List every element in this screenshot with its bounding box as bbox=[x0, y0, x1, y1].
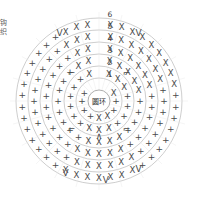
corner-bracket-symbol: ⌐ bbox=[123, 68, 131, 78]
stitch-symbol: + bbox=[56, 107, 64, 117]
stitch-symbol: X bbox=[86, 69, 92, 79]
stitch-symbol: X bbox=[85, 20, 91, 30]
stitch-symbol: + bbox=[56, 85, 64, 95]
stitch-symbol: X bbox=[85, 56, 91, 66]
stitch-symbol: + bbox=[43, 102, 51, 112]
stitch-symbol: + bbox=[34, 74, 42, 84]
stitch-symbol: X bbox=[138, 46, 144, 56]
stitch-symbol: X bbox=[129, 40, 135, 50]
corner-bracket-symbol: ⌐ bbox=[68, 68, 76, 78]
stitch-symbol: + bbox=[49, 123, 57, 133]
stitch-symbol: X bbox=[146, 54, 152, 64]
stitch-symbol: + bbox=[31, 107, 39, 117]
stitch-symbol: + bbox=[135, 107, 143, 117]
stitch-symbol: X bbox=[74, 157, 80, 167]
stitch-symbol: X bbox=[127, 53, 133, 63]
stitch-symbol: + bbox=[56, 61, 64, 71]
corner-bracket-symbol: ⌐ bbox=[68, 124, 76, 134]
stitch-symbol: + bbox=[110, 105, 118, 115]
stitch-symbol: + bbox=[148, 102, 156, 112]
stitch-symbol: X bbox=[106, 123, 112, 133]
round-number-5: 5 bbox=[108, 22, 113, 31]
stitch-symbol: + bbox=[60, 117, 68, 127]
stitch-symbol: + bbox=[18, 90, 26, 100]
stitch-symbol: X bbox=[96, 161, 102, 171]
stitch-symbol: + bbox=[77, 74, 85, 84]
stitch-symbol: X bbox=[118, 48, 124, 58]
stitch-symbol: + bbox=[64, 53, 72, 63]
increase-symbol: V bbox=[56, 28, 63, 38]
stitch-symbol: + bbox=[124, 91, 132, 101]
stitch-symbol: + bbox=[81, 105, 89, 115]
stitch-symbol: + bbox=[162, 135, 170, 145]
stitch-symbol: X bbox=[118, 35, 124, 45]
stitch-symbol: X bbox=[63, 27, 69, 37]
stitch-symbol: + bbox=[64, 139, 72, 149]
stitch-symbol: + bbox=[45, 112, 53, 122]
stitch-symbol: + bbox=[63, 152, 71, 162]
stitch-symbol: X bbox=[85, 148, 91, 158]
stitch-symbol: + bbox=[56, 132, 64, 142]
stitch-symbol: + bbox=[136, 96, 144, 106]
stitch-symbol: X bbox=[115, 74, 121, 84]
crochet-ring-diagram: 钩织 X++XX++++XXX++++XXX++++++XXXXXX++++XX… bbox=[0, 0, 198, 198]
stitch-symbol: X bbox=[73, 22, 79, 32]
stitch-symbol: + bbox=[156, 118, 164, 128]
stitch-symbol: + bbox=[141, 123, 149, 133]
increase-symbol: V bbox=[135, 28, 142, 38]
stitch-symbol: X bbox=[107, 160, 113, 170]
stitch-symbol: X bbox=[171, 79, 177, 89]
stitch-symbol: + bbox=[81, 88, 89, 98]
stitch-symbol: X bbox=[117, 61, 123, 71]
chevron-symbol: ∧ bbox=[96, 131, 103, 141]
stitch-symbol: X bbox=[74, 35, 80, 45]
stitch-symbol: + bbox=[137, 146, 145, 156]
stitch-symbol: X bbox=[118, 157, 124, 167]
stitch-symbol: X bbox=[96, 173, 102, 183]
stitch-symbol: + bbox=[31, 85, 39, 95]
stitch-symbol: X bbox=[142, 70, 148, 80]
stitch-symbol: + bbox=[49, 70, 57, 80]
stitch-symbol: X bbox=[86, 123, 92, 133]
round-number-1: 1 bbox=[108, 70, 113, 79]
stitch-symbol: + bbox=[70, 111, 78, 121]
stitch-symbol: X bbox=[64, 40, 70, 50]
stitch-symbol: X bbox=[146, 80, 152, 90]
stitch-symbol: X bbox=[107, 148, 113, 158]
stitch-symbol: X bbox=[107, 136, 113, 146]
stitch-symbol: + bbox=[45, 54, 53, 64]
stitch-symbol: + bbox=[35, 144, 43, 154]
stitch-symbol: X bbox=[119, 22, 125, 32]
stitch-symbol: + bbox=[45, 80, 53, 90]
stitch-symbol: + bbox=[43, 91, 51, 101]
stitch-symbol: + bbox=[172, 102, 180, 112]
stitch-symbol: X bbox=[85, 32, 91, 42]
stitch-symbol: + bbox=[75, 132, 83, 142]
stitch-symbol: + bbox=[114, 118, 122, 128]
stitch-symbol: + bbox=[29, 58, 37, 68]
round-number-4: 4 bbox=[108, 34, 113, 43]
stitch-symbol: + bbox=[77, 118, 85, 128]
stitch-symbol: + bbox=[126, 139, 134, 149]
stitch-symbol: + bbox=[159, 107, 167, 117]
stitch-symbol: + bbox=[43, 152, 51, 162]
stitch-symbol: X bbox=[85, 172, 91, 182]
stitch-symbol: X bbox=[152, 64, 158, 74]
stitch-symbol: + bbox=[78, 96, 86, 106]
round-number-6: 6 bbox=[108, 10, 113, 19]
stitch-symbol: + bbox=[124, 101, 132, 111]
stitch-symbol: + bbox=[53, 146, 61, 156]
stitch-symbol: + bbox=[135, 132, 143, 142]
stitch-symbol: + bbox=[120, 111, 128, 121]
stitch-symbol: + bbox=[43, 40, 51, 50]
stitch-symbol: X bbox=[148, 40, 154, 50]
stitch-symbol: + bbox=[145, 138, 153, 148]
stitch-symbol: X bbox=[85, 160, 91, 170]
stitch-symbol: + bbox=[20, 113, 28, 123]
stitch-symbol: + bbox=[54, 96, 62, 106]
stitch-symbol: + bbox=[24, 68, 32, 78]
stitch-symbol: X bbox=[118, 144, 124, 154]
stitch-symbol: X bbox=[85, 136, 91, 146]
stitch-symbol: + bbox=[160, 96, 168, 106]
stitch-symbol: + bbox=[148, 152, 156, 162]
